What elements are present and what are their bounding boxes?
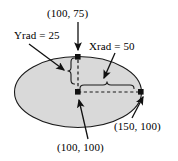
top-vertex-marker: [75, 54, 81, 60]
right-vertex-marker: [138, 89, 144, 95]
y-radius-label: Yrad = 25: [14, 30, 60, 41]
diagram-canvas: [0, 0, 178, 161]
top-point-label: (100, 75): [47, 8, 88, 19]
center-point-label: (100, 100): [57, 142, 104, 153]
right-point-label: (150, 100): [114, 121, 161, 132]
x-radius-label: Xrad = 50: [89, 41, 135, 52]
center-marker: [75, 89, 81, 95]
ellipse-radii-figure: (100, 75) Yrad = 25 Xrad = 50 (150, 100)…: [0, 0, 178, 161]
